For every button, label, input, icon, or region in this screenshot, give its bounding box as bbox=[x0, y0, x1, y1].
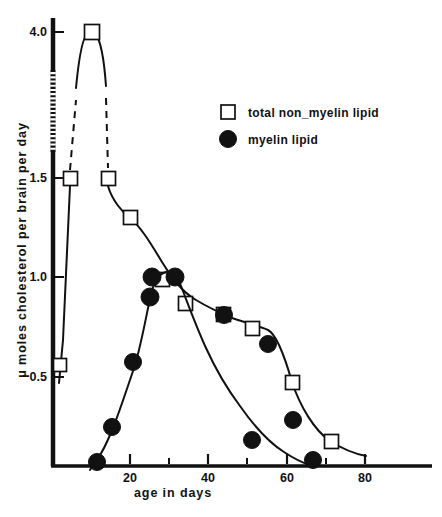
marker-filled-circle bbox=[216, 307, 233, 324]
nonmyelin-line-dashed-rise bbox=[70, 100, 76, 170]
marker-open-square bbox=[325, 435, 339, 449]
nonmyelin-line-peak bbox=[76, 33, 106, 88]
marker-open-square bbox=[54, 359, 67, 372]
legend-label-total-non-myelin-lipid: total non_myelin lipid bbox=[248, 106, 379, 120]
marker-filled-circle-outlier bbox=[244, 432, 261, 449]
y-tick-label-1: 1.5 bbox=[30, 171, 47, 185]
marker-filled-circle bbox=[89, 454, 106, 471]
marker-filled-circle-outlier bbox=[285, 412, 302, 429]
marker-filled-circle bbox=[305, 452, 322, 469]
y-ticks: 4.0 1.5 1.0 0.5 bbox=[30, 25, 64, 384]
chart-canvas: 4.0 1.5 1.0 0.5 20 40 60 80 age in days … bbox=[0, 0, 442, 517]
y-tick-label-2: 1.0 bbox=[30, 270, 47, 284]
figure-chart-cholesterol-vs-age: 4.0 1.5 1.0 0.5 20 40 60 80 age in days … bbox=[0, 0, 442, 517]
nonmyelin-line-dashed-fall bbox=[106, 98, 108, 168]
legend-label-myelin-lipid: myelin lipid bbox=[248, 133, 318, 147]
marker-filled-circle bbox=[166, 268, 184, 286]
x-tick-label-0: 20 bbox=[123, 471, 137, 485]
marker-filled-circle bbox=[143, 268, 161, 286]
y-tick-label-3: 0.5 bbox=[30, 370, 47, 384]
marker-filled-circle bbox=[260, 336, 277, 353]
legend-marker-filled-circle bbox=[220, 131, 237, 148]
nonmyelin-line-decay bbox=[108, 186, 366, 456]
marker-filled-circle bbox=[141, 288, 159, 306]
y-tick-label-0: 4.0 bbox=[30, 25, 47, 39]
nonmyelin-line-segment-rise bbox=[59, 186, 70, 383]
y-axis-title: μ moles cholesterol per brain per day bbox=[15, 122, 29, 378]
series-total-non-myelin-lipid bbox=[54, 25, 367, 457]
x-tick-label-1: 40 bbox=[201, 471, 215, 485]
marker-open-square bbox=[246, 322, 260, 336]
x-tick-label-3: 80 bbox=[358, 471, 372, 485]
marker-open-square bbox=[286, 376, 300, 390]
legend-marker-open-square bbox=[221, 105, 235, 119]
myelin-line bbox=[90, 272, 312, 470]
marker-open-square bbox=[124, 211, 138, 225]
marker-filled-circle bbox=[104, 419, 121, 436]
marker-open-square bbox=[64, 172, 78, 186]
x-ticks: 20 40 60 80 bbox=[123, 454, 372, 485]
x-tick-label-2: 60 bbox=[280, 471, 294, 485]
marker-open-square bbox=[102, 172, 116, 186]
marker-filled-circle bbox=[125, 354, 142, 371]
x-axis-title: age in days bbox=[134, 486, 212, 500]
marker-open-square bbox=[85, 25, 100, 40]
legend: total non_myelin lipid myelin lipid bbox=[220, 105, 380, 148]
series-myelin-lipid bbox=[89, 268, 322, 471]
axis-group bbox=[51, 18, 432, 466]
